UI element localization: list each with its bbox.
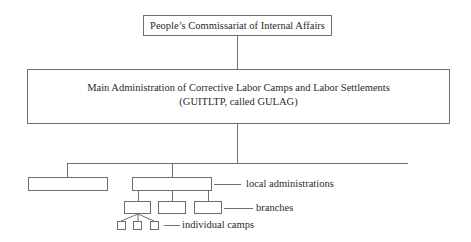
legend-line-branches xyxy=(224,208,253,209)
connector-local-admin-to-branch-3 xyxy=(208,191,209,201)
node-camp-3 xyxy=(150,221,159,230)
node-peoples-commissariat-label: People’s Commissariat of Internal Affair… xyxy=(144,19,331,33)
node-camp-1 xyxy=(117,221,126,230)
connector-main-to-bus xyxy=(237,124,238,163)
legend-line-local-administrations xyxy=(214,184,241,185)
node-camp-2 xyxy=(133,221,142,230)
node-main-administration-line2: (GUITLTP, called GULAG) xyxy=(28,95,449,109)
node-unlabeled-unit xyxy=(28,177,108,191)
legend-label-individual-camps: individual camps xyxy=(182,219,254,231)
connector-local-admin-to-branch-1 xyxy=(138,191,139,201)
connector-bus-to-unlabeled-unit xyxy=(67,163,68,177)
connector-top-to-main xyxy=(237,36,238,69)
node-local-administration xyxy=(132,177,212,191)
node-main-administration-gulag: Main Administration of Corrective Labor … xyxy=(27,69,450,124)
connector-bus-horizontal xyxy=(67,163,408,164)
node-branch-2 xyxy=(158,201,186,214)
gulag-org-chart: People’s Commissariat of Internal Affair… xyxy=(0,0,471,242)
node-main-administration-line1: Main Administration of Corrective Labor … xyxy=(28,81,449,95)
node-branch-1 xyxy=(124,201,151,214)
node-peoples-commissariat: People’s Commissariat of Internal Affair… xyxy=(143,15,332,36)
legend-line-individual-camps xyxy=(164,225,180,226)
node-branch-3 xyxy=(194,201,222,214)
connector-bus-to-local-administration xyxy=(172,163,173,177)
legend-label-local-administrations: local administrations xyxy=(246,178,334,190)
legend-label-branches: branches xyxy=(256,202,293,214)
connector-local-admin-to-branch-2 xyxy=(172,191,173,201)
